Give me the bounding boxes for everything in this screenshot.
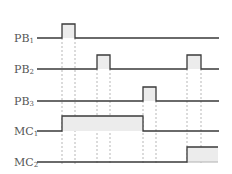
timing-diagram: PB1 PB2 PB3 MC1 MC2: [0, 0, 232, 174]
label-mc1: MC1: [14, 125, 38, 138]
signal-mc2: MC2: [14, 147, 218, 169]
signal-pb2: PB2: [14, 55, 219, 76]
label-mc2: MC2: [14, 156, 38, 169]
signal-mc1: MC1: [14, 116, 219, 138]
signal-pb1: PB1: [14, 24, 219, 45]
label-pb2: PB2: [14, 63, 34, 76]
label-pb1: PB1: [14, 32, 34, 45]
signal-pb3: PB3: [14, 87, 219, 108]
label-pb3: PB3: [14, 95, 34, 108]
